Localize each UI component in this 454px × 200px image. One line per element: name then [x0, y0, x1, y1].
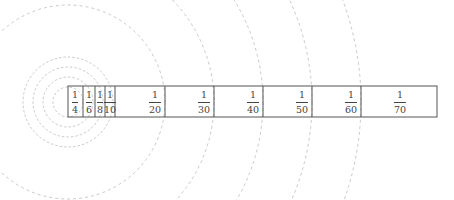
- numerator: 1: [299, 90, 305, 100]
- fraction-label: 110: [104, 90, 116, 114]
- fraction-bar: [247, 102, 259, 103]
- fraction-label: 18: [97, 90, 103, 114]
- fraction-label: 150: [296, 90, 308, 114]
- numerator: 1: [348, 90, 354, 100]
- numerator: 1: [152, 90, 158, 100]
- fraction-label: 16: [86, 90, 92, 114]
- denominator: 70: [394, 105, 406, 115]
- fraction-bar: [296, 102, 308, 103]
- denominator: 8: [97, 105, 103, 115]
- numerator: 1: [397, 90, 403, 100]
- denominator: 20: [149, 105, 161, 115]
- fraction-bar: [72, 102, 78, 103]
- fraction-label: 170: [394, 90, 406, 114]
- fraction-label: 130: [198, 90, 210, 114]
- numerator: 1: [250, 90, 256, 100]
- wave-arc: [0, 0, 263, 200]
- numerator: 1: [201, 90, 207, 100]
- denominator: 4: [72, 105, 78, 115]
- fraction-bar: [104, 102, 116, 103]
- fraction-bar: [149, 102, 161, 103]
- denominator: 40: [247, 105, 259, 115]
- fraction-bar: [345, 102, 357, 103]
- fraction-label: 160: [345, 90, 357, 114]
- diagram-canvas: [0, 0, 454, 200]
- fraction-label: 140: [247, 90, 259, 114]
- fraction-label: 14: [72, 90, 78, 114]
- fraction-bar: [86, 102, 92, 103]
- denominator: 60: [345, 105, 357, 115]
- denominator: 10: [104, 105, 116, 115]
- numerator: 1: [72, 90, 78, 100]
- denominator: 50: [296, 105, 308, 115]
- numerator: 1: [107, 90, 113, 100]
- numerator: 1: [97, 90, 103, 100]
- fraction-bar: [198, 102, 210, 103]
- denominator: 6: [86, 105, 92, 115]
- denominator: 30: [198, 105, 210, 115]
- fraction-bar: [394, 102, 406, 103]
- numerator: 1: [86, 90, 92, 100]
- fraction-bar: [97, 102, 103, 103]
- fraction-label: 120: [149, 90, 161, 114]
